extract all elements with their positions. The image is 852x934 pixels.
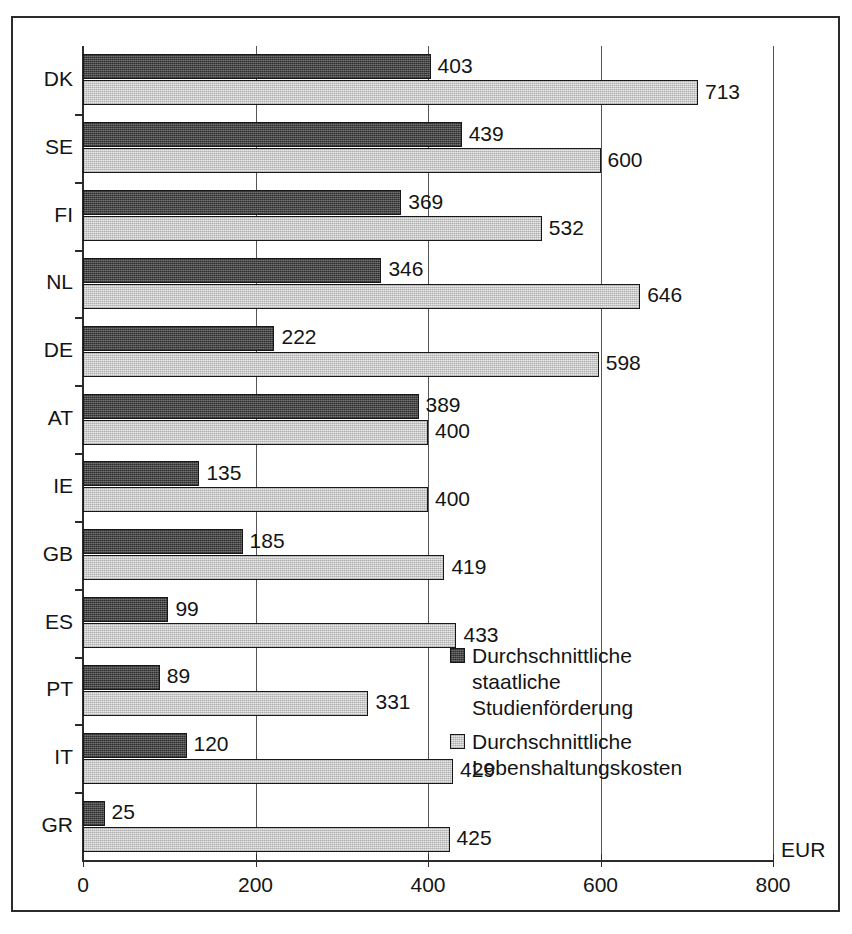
bar-group-IE: IE135400: [13, 453, 842, 521]
legend-entry-2: DurchschnittlicheLebenshaltungskosten: [450, 729, 780, 781]
bar-value-IE-lebenshaltungskosten: 400: [435, 487, 470, 511]
category-label-IE: IE: [13, 474, 73, 498]
bar-value-SE-foerderung: 439: [469, 122, 504, 146]
bar-IE-foerderung: [83, 461, 199, 486]
category-label-GR: GR: [13, 813, 73, 837]
bar-SE-lebenshaltungskosten: [83, 148, 601, 173]
legend-label-1-line-3: Studienförderung: [472, 695, 780, 721]
category-label-FI: FI: [13, 203, 73, 227]
bar-value-NL-lebenshaltungskosten: 646: [647, 283, 682, 307]
bar-group-FI: FI369532: [13, 182, 842, 250]
bar-FI-foerderung: [83, 190, 401, 215]
category-label-AT: AT: [13, 406, 73, 430]
bar-NL-foerderung: [83, 258, 381, 283]
bar-GB-foerderung: [83, 529, 243, 554]
bar-value-DE-lebenshaltungskosten: 598: [606, 351, 641, 375]
legend-label-2-line-2: Lebenshaltungskosten: [472, 755, 780, 781]
category-label-ES: ES: [13, 610, 73, 634]
legend-label-1-line-1: Durchschnittliche: [472, 643, 780, 669]
bar-chart-plot-area: 0200400600800 DK403713SE439600FI369532NL…: [13, 18, 842, 914]
axis-unit-label: EUR: [781, 838, 825, 862]
bar-value-AT-foerderung: 389: [426, 393, 461, 417]
bar-ES-lebenshaltungskosten: [83, 623, 456, 648]
legend-swatch-light: [450, 734, 465, 749]
category-label-PT: PT: [13, 677, 73, 701]
bar-value-NL-foerderung: 346: [388, 257, 423, 281]
x-tick-label-200: 200: [216, 873, 296, 897]
bar-SE-foerderung: [83, 122, 462, 147]
category-label-SE: SE: [13, 135, 73, 159]
x-tick-label-800: 800: [733, 873, 813, 897]
category-label-DK: DK: [13, 67, 73, 91]
bar-AT-lebenshaltungskosten: [83, 420, 428, 445]
legend-swatch-dark: [450, 648, 465, 663]
bar-value-SE-lebenshaltungskosten: 600: [608, 148, 643, 172]
legend-entry-1: DurchschnittlichestaatlicheStudienförder…: [450, 643, 780, 721]
bar-value-PT-lebenshaltungskosten: 331: [375, 690, 410, 714]
category-label-DE: DE: [13, 338, 73, 362]
bar-value-FI-lebenshaltungskosten: 532: [549, 216, 584, 240]
bar-group-DE: DE222598: [13, 317, 842, 385]
bar-PT-lebenshaltungskosten: [83, 691, 368, 716]
bar-value-FI-foerderung: 369: [408, 190, 443, 214]
bar-IT-lebenshaltungskosten: [83, 759, 453, 784]
x-tick-label-600: 600: [561, 873, 641, 897]
bar-value-DK-foerderung: 403: [438, 54, 473, 78]
x-tick-label-400: 400: [388, 873, 468, 897]
bar-value-ES-foerderung: 99: [175, 597, 198, 621]
bar-GR-lebenshaltungskosten: [83, 827, 450, 852]
bar-value-PT-foerderung: 89: [167, 664, 190, 688]
bar-NL-lebenshaltungskosten: [83, 284, 640, 309]
bar-value-GR-lebenshaltungskosten: 425: [457, 826, 492, 850]
bar-value-IE-foerderung: 135: [206, 461, 241, 485]
bar-GR-foerderung: [83, 801, 105, 826]
category-label-NL: NL: [13, 270, 73, 294]
bar-value-DK-lebenshaltungskosten: 713: [705, 80, 740, 104]
bar-value-IT-foerderung: 120: [194, 732, 229, 756]
bar-AT-foerderung: [83, 394, 419, 419]
bar-FI-lebenshaltungskosten: [83, 216, 542, 241]
bar-value-GB-lebenshaltungskosten: 419: [451, 555, 486, 579]
figure-frame: 0200400600800 DK403713SE439600FI369532NL…: [11, 16, 840, 912]
category-label-IT: IT: [13, 745, 73, 769]
bar-group-SE: SE439600: [13, 114, 842, 182]
bar-group-AT: AT389400: [13, 385, 842, 453]
bar-PT-foerderung: [83, 665, 160, 690]
bar-group-NL: NL346646: [13, 250, 842, 318]
bar-GB-lebenshaltungskosten: [83, 555, 444, 580]
bar-ES-foerderung: [83, 597, 168, 622]
bar-group-DK: DK403713: [13, 46, 842, 114]
legend-label-2-line-1: Durchschnittliche: [472, 729, 780, 755]
x-tick-label-0: 0: [43, 873, 123, 897]
bar-DK-lebenshaltungskosten: [83, 80, 698, 105]
bar-IE-lebenshaltungskosten: [83, 487, 428, 512]
bar-value-GR-foerderung: 25: [112, 800, 135, 824]
bar-DE-foerderung: [83, 326, 274, 351]
chart-legend: DurchschnittlichestaatlicheStudienförder…: [450, 643, 780, 789]
bar-value-AT-lebenshaltungskosten: 400: [435, 419, 470, 443]
bar-group-GR: GR25425: [13, 792, 842, 860]
category-label-GB: GB: [13, 542, 73, 566]
bar-IT-foerderung: [83, 733, 187, 758]
bar-DK-foerderung: [83, 54, 431, 79]
legend-label-1-line-2: staatliche: [472, 669, 780, 695]
bar-value-DE-foerderung: 222: [281, 325, 316, 349]
bar-group-GB: GB185419: [13, 521, 842, 589]
bar-DE-lebenshaltungskosten: [83, 352, 599, 377]
bar-value-GB-foerderung: 185: [250, 529, 285, 553]
